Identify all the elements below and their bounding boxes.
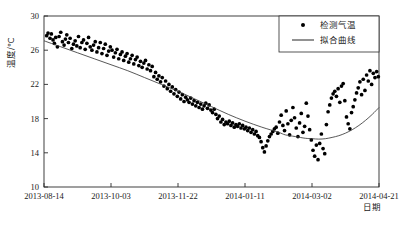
scatter-point: [117, 57, 121, 61]
scatter-point: [130, 53, 134, 57]
scatter-point: [154, 71, 158, 75]
scatter-point: [365, 73, 369, 77]
x-tick-label: 2013-08-14: [24, 191, 64, 201]
scatter-point: [231, 121, 235, 125]
scatter-point: [375, 70, 379, 74]
scatter-point: [182, 100, 186, 104]
scatter-point: [194, 104, 198, 108]
scatter-point: [261, 146, 265, 150]
scatter-point: [350, 111, 354, 115]
scatter-point: [51, 38, 55, 42]
scatter-point: [172, 92, 176, 96]
scatter-point: [328, 103, 332, 107]
scatter-point: [85, 42, 89, 46]
scatter-point: [73, 39, 77, 43]
scatter-point: [293, 116, 297, 120]
y-tick-label: 22: [31, 79, 40, 89]
scatter-point: [61, 40, 65, 44]
x-tick-label: 2014-01-11: [225, 191, 264, 201]
scatter-point: [264, 144, 268, 148]
scatter-point: [353, 98, 357, 102]
y-tick-label: 18: [31, 114, 40, 124]
scatter-point: [164, 79, 168, 83]
y-axis-title: 温度/℃: [6, 37, 16, 68]
scatter-point: [132, 62, 136, 66]
scatter-point: [335, 95, 339, 99]
scatter-point: [341, 82, 345, 86]
scatter-point: [313, 154, 317, 158]
scatter-point: [338, 101, 342, 105]
scatter-point: [155, 77, 159, 81]
scatter-point: [90, 48, 94, 52]
scatter-point: [291, 106, 295, 110]
scatter-point: [167, 83, 171, 87]
scatter-point: [64, 37, 68, 41]
scatter-point: [97, 46, 101, 50]
scatter-point: [87, 36, 91, 40]
scatter-point: [311, 148, 315, 152]
scatter-point: [50, 32, 54, 36]
legend-label: 检测气温: [320, 20, 356, 30]
scatter-point: [107, 49, 111, 53]
scatter-point: [139, 59, 143, 63]
scatter-point: [187, 101, 191, 105]
x-tick-label: 2014-04-21: [359, 191, 399, 201]
scatter-point: [299, 112, 303, 116]
scatter-point: [241, 124, 245, 128]
scatter-point: [254, 130, 258, 134]
scatter-point: [135, 55, 139, 59]
scatter-point: [65, 33, 69, 37]
scatter-point: [263, 150, 267, 154]
scatter-point: [82, 38, 86, 42]
scatter-point: [197, 106, 201, 110]
scatter-point: [336, 87, 340, 91]
scatter-point: [147, 63, 151, 67]
scatter-point: [110, 48, 114, 52]
scatter-point: [278, 120, 282, 124]
scatter-point: [258, 136, 262, 140]
scatter-point: [46, 31, 50, 35]
scatter-point: [120, 50, 124, 54]
scatter-point: [103, 42, 107, 46]
scatter-point: [67, 41, 71, 45]
scatter-point: [298, 121, 302, 125]
scatter-point: [315, 143, 319, 147]
scatter-point: [62, 43, 66, 47]
scatter-point: [248, 126, 252, 130]
scatter-point: [346, 122, 350, 126]
x-tick-label: 2013-11-22: [158, 191, 197, 201]
scatter-point: [368, 69, 372, 73]
scatter-point: [140, 65, 144, 69]
scatter-point: [54, 36, 58, 40]
scatter-point: [179, 97, 183, 101]
scatter-point: [320, 132, 324, 136]
scatter-point: [108, 45, 112, 49]
scatter-point: [361, 77, 365, 81]
scatter-point: [308, 128, 312, 132]
scatter-point: [152, 75, 156, 79]
scatter-point: [175, 95, 179, 99]
scatter-point: [157, 74, 161, 78]
scatter-point: [304, 101, 308, 105]
x-tick-label: 2014-03-02: [292, 191, 332, 201]
y-tick-label: 26: [31, 45, 40, 55]
legend-dot-icon: [301, 23, 305, 27]
scatter-point: [356, 86, 360, 90]
scatter-point: [351, 105, 355, 109]
scatter-point: [345, 115, 349, 119]
x-axis-title: 日期: [363, 202, 381, 212]
scatter-point: [169, 89, 173, 93]
scatter-point: [303, 124, 307, 128]
scatter-point: [237, 122, 241, 126]
scatter-point: [93, 40, 97, 44]
scatter-point: [92, 43, 96, 47]
scatter-point: [217, 114, 221, 118]
scatter-point: [191, 102, 195, 106]
scatter-point: [77, 35, 81, 39]
scatter-point: [129, 57, 133, 61]
scatter-point: [279, 113, 283, 117]
scatter-point: [144, 59, 148, 63]
scatter-point: [78, 46, 82, 50]
scatter-point: [370, 83, 374, 87]
scatter-point: [221, 118, 225, 122]
